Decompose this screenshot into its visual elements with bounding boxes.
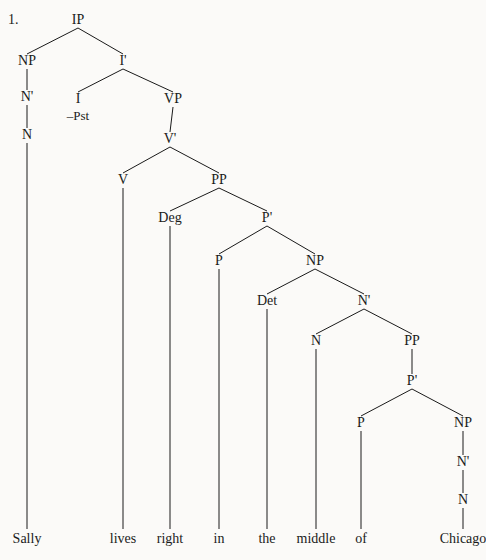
- terminal-word-chicago: Chicago: [440, 531, 486, 546]
- node-np1: NP: [18, 53, 36, 68]
- terminal-word-sally: Sally: [13, 531, 42, 546]
- terminal-word-middle: middle: [297, 531, 336, 546]
- node-vp: VP: [164, 91, 182, 106]
- node-np3: NP: [454, 415, 472, 430]
- node-p1: P: [215, 253, 223, 268]
- syntax-tree-figure: IPNPI'N'IVPNV'VPPDegP'PNPDetN'NPPP'PNPN'…: [0, 0, 486, 560]
- node-p1bar: P': [262, 210, 272, 225]
- branch-N2bar-to-PP2: [364, 309, 412, 334]
- terminal-word-in: in: [214, 531, 225, 546]
- item-number: 1.: [8, 12, 19, 27]
- terminal-word-the: the: [258, 531, 275, 546]
- node-p2: P: [357, 415, 365, 430]
- node-n3bar: N': [457, 454, 470, 469]
- branch-VP-to-Vbar: [170, 107, 173, 132]
- node-np2: NP: [306, 253, 324, 268]
- branch-Ibar-to-VP: [123, 69, 173, 92]
- node-n1: N: [22, 127, 32, 142]
- node-i: I: [76, 91, 81, 106]
- node-n1bar: N': [21, 89, 34, 104]
- node-p2bar: P': [407, 373, 417, 388]
- branch-Vbar-to-PP1: [170, 147, 219, 173]
- branch-IP-to-NP1: [27, 28, 78, 54]
- branch-P2bar-to-P2: [361, 389, 412, 416]
- node-deg: Deg: [158, 210, 181, 225]
- terminal-word-lives: lives: [110, 531, 136, 546]
- branch-N2bar-to-N2: [316, 309, 364, 334]
- branch-Vbar-to-V: [123, 147, 170, 173]
- branch-PP1-to-P1bar: [219, 188, 267, 211]
- node-n3: N: [458, 492, 468, 507]
- feature-pst: –Pst: [66, 108, 90, 123]
- branch-NP2-to-N2bar: [315, 269, 364, 294]
- branch-layer: [27, 28, 463, 493]
- node-pp1: PP: [211, 172, 227, 187]
- node-vbar: V': [164, 131, 177, 146]
- terminal-word-layer: SallylivesrightinthemiddleofChicago: [13, 531, 486, 546]
- node-n2bar: N': [358, 293, 371, 308]
- feature-label-layer: –Pst: [66, 108, 90, 123]
- node-ibar: I': [119, 53, 126, 68]
- tree-canvas: IPNPI'N'IVPNV'VPPDegP'PNPDetN'NPPP'PNPN'…: [0, 0, 486, 560]
- branch-P1bar-to-NP2: [267, 226, 315, 254]
- node-det: Det: [257, 293, 277, 308]
- branch-P2bar-to-NP3: [412, 389, 463, 416]
- branch-P1bar-to-P1: [219, 226, 267, 254]
- terminal-word-right: right: [157, 531, 184, 546]
- branch-NP2-to-Det: [267, 269, 315, 294]
- node-label-layer: IPNPI'N'IVPNV'VPPDegP'PNPDetN'NPPP'PNPN'…: [18, 12, 472, 507]
- node-n2: N: [311, 333, 321, 348]
- terminal-word-of: of: [355, 531, 367, 546]
- node-v: V: [118, 172, 128, 187]
- branch-PP1-to-Deg: [170, 188, 219, 211]
- branch-Ibar-to-I: [78, 69, 123, 92]
- node-pp2: PP: [404, 333, 420, 348]
- branch-IP-to-Ibar: [78, 28, 123, 54]
- node-ip: IP: [72, 12, 85, 27]
